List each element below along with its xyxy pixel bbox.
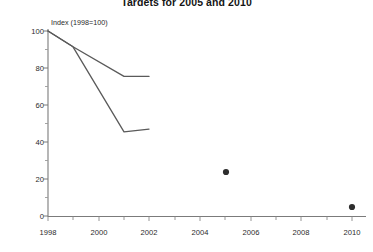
chart-plot-area xyxy=(0,0,373,252)
x-ticks xyxy=(48,217,352,222)
series-lower-line xyxy=(48,31,149,132)
target-point-2010 xyxy=(349,204,355,210)
chart-container: Targets for 2005 and 2010 Index (1998=10… xyxy=(0,0,373,252)
series-upper-line xyxy=(48,31,149,76)
target-point-2005 xyxy=(223,169,229,175)
